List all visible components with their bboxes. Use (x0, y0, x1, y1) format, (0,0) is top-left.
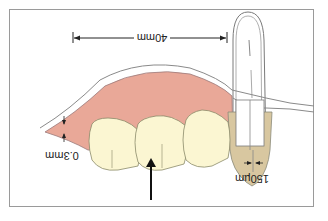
gap-label: 150µm (235, 173, 269, 185)
thickness-label: 0.3mm (45, 150, 79, 162)
span-dimension: 40mm (73, 32, 227, 44)
force-arrow (146, 158, 156, 200)
dental-diagram: 40mm 0.3mm 150µm (0, 0, 328, 221)
tooth-left (89, 118, 140, 170)
tooth-right (183, 110, 230, 167)
tooth-middle (135, 116, 188, 171)
span-label: 40mm (137, 32, 168, 44)
teeth-row (89, 110, 230, 170)
